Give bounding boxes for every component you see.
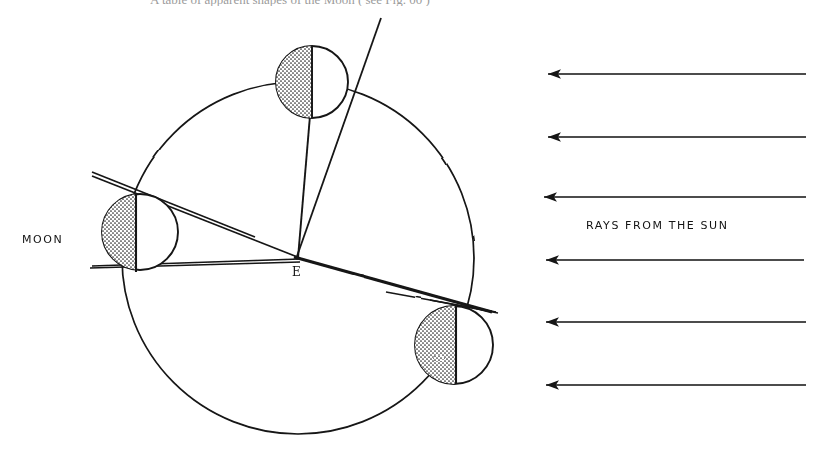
label-earth-center: E	[292, 265, 301, 279]
line-earth-to-moon-bottom-right	[294, 257, 492, 312]
moon-bottom-right-shadow-half	[412, 302, 456, 394]
moon-top-shadow-half	[270, 40, 312, 126]
moon-phases-diagram: MOON E RAYS FROM THE SUN	[0, 0, 818, 452]
label-moon: MOON	[22, 233, 63, 246]
label-rays-from-the-sun: RAYS FROM THE SUN	[586, 219, 729, 232]
figure-root: A table of apparent shapes of the Moon (…	[0, 0, 818, 452]
moon-top	[270, 40, 348, 126]
